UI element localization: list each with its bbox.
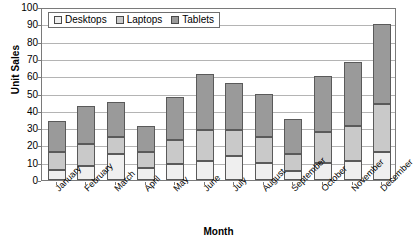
legend-item[interactable]: Tablets bbox=[171, 15, 214, 25]
bar-segment-laptops[interactable] bbox=[344, 126, 362, 161]
bar-segment-tablets[interactable] bbox=[344, 62, 362, 125]
bar-group[interactable] bbox=[48, 7, 66, 180]
bar-group[interactable] bbox=[344, 7, 362, 180]
bar-group[interactable] bbox=[284, 7, 302, 180]
bar-group[interactable] bbox=[107, 7, 125, 180]
y-axis-tick-label: 40 bbox=[4, 107, 38, 117]
x-axis-tick-labels: JanuaryFebruaryMarchAprilMayJuneJulyAugu… bbox=[41, 182, 396, 224]
y-axis-tick-label: 60 bbox=[4, 72, 38, 82]
x-axis-title: Month bbox=[41, 226, 396, 237]
bar-segment-laptops[interactable] bbox=[284, 154, 302, 171]
legend-label: Tablets bbox=[182, 15, 214, 25]
bar-segment-tablets[interactable] bbox=[137, 126, 155, 152]
y-axis-tick-label: 100 bbox=[4, 3, 38, 13]
bar-group[interactable] bbox=[314, 7, 332, 180]
plot-area bbox=[41, 8, 396, 181]
bar-group[interactable] bbox=[373, 7, 391, 180]
y-axis-tick-label: 90 bbox=[4, 20, 38, 30]
bar-segment-tablets[interactable] bbox=[373, 24, 391, 104]
bar-segment-laptops[interactable] bbox=[196, 130, 214, 161]
bar-segment-tablets[interactable] bbox=[196, 74, 214, 129]
y-axis-tick-label: 70 bbox=[4, 55, 38, 65]
bar-segment-tablets[interactable] bbox=[166, 97, 184, 140]
y-axis-tick-label: 30 bbox=[4, 124, 38, 134]
bar-segment-tablets[interactable] bbox=[48, 121, 66, 152]
bar-group[interactable] bbox=[137, 7, 155, 180]
bar-segment-laptops[interactable] bbox=[77, 144, 95, 166]
bar-group[interactable] bbox=[166, 7, 184, 180]
y-axis-tick-label: 20 bbox=[4, 141, 38, 151]
bar-segment-tablets[interactable] bbox=[255, 94, 273, 137]
bar-segment-tablets[interactable] bbox=[225, 83, 243, 130]
legend-item[interactable]: Desktops bbox=[54, 15, 107, 25]
bar-group[interactable] bbox=[255, 7, 273, 180]
bar-segment-tablets[interactable] bbox=[284, 119, 302, 154]
bar-segment-laptops[interactable] bbox=[48, 152, 66, 169]
bar-group[interactable] bbox=[196, 7, 214, 180]
bar-segment-tablets[interactable] bbox=[77, 106, 95, 144]
y-axis-tick-label: 0 bbox=[4, 176, 38, 186]
bar-segment-laptops[interactable] bbox=[373, 104, 391, 152]
y-axis-tick-label: 10 bbox=[4, 159, 38, 169]
chart-legend: DesktopsLaptopsTablets bbox=[48, 12, 220, 28]
bar-segment-laptops[interactable] bbox=[107, 137, 125, 154]
legend-item[interactable]: Laptops bbox=[116, 15, 163, 25]
legend-swatch-icon bbox=[171, 16, 179, 24]
bar-group[interactable] bbox=[77, 7, 95, 180]
bar-segment-tablets[interactable] bbox=[107, 102, 125, 137]
bar-group[interactable] bbox=[225, 7, 243, 180]
legend-label: Laptops bbox=[127, 15, 163, 25]
bar-segment-laptops[interactable] bbox=[137, 152, 155, 168]
y-axis-tick-label: 50 bbox=[4, 90, 38, 100]
legend-swatch-icon bbox=[116, 16, 124, 24]
y-axis-tick-label: 80 bbox=[4, 38, 38, 48]
bar-segment-laptops[interactable] bbox=[225, 130, 243, 156]
y-axis-tick-labels: 0102030405060708090100 bbox=[0, 0, 38, 243]
bars-layer bbox=[42, 9, 395, 180]
bar-segment-laptops[interactable] bbox=[255, 137, 273, 163]
bar-segment-laptops[interactable] bbox=[166, 140, 184, 164]
legend-swatch-icon bbox=[54, 16, 62, 24]
legend-label: Desktops bbox=[65, 15, 107, 25]
bar-segment-tablets[interactable] bbox=[314, 76, 332, 132]
